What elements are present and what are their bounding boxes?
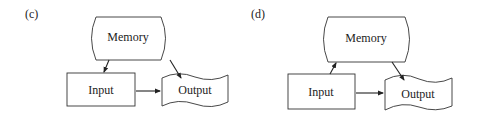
input-label-d: Input	[308, 85, 334, 99]
input-node-d: Input	[288, 74, 355, 109]
output-node-c: Output	[162, 74, 228, 107]
memory-node-c: Memory	[92, 17, 166, 60]
memory-label-d: Memory	[345, 31, 386, 45]
input-node-c: Input	[67, 73, 135, 106]
input-label-c: Input	[88, 83, 114, 97]
panel-d-label: (d)	[251, 7, 265, 21]
memory-node-d: Memory	[324, 17, 410, 62]
output-node-d: Output	[385, 75, 452, 110]
panel-c: (c) Memory Input Output	[25, 7, 228, 107]
arrow-input-to-memory-d	[330, 63, 336, 74]
panel-c-label: (c)	[25, 7, 38, 21]
diagram-canvas: (c) Memory Input Output (d) Memory Input	[0, 0, 478, 118]
output-label-c: Output	[178, 83, 212, 97]
memory-label-c: Memory	[107, 30, 148, 44]
arrow-memory-to-input-c	[104, 60, 109, 72]
output-label-d: Output	[401, 87, 435, 101]
panel-d: (d) Memory Input Output	[251, 7, 452, 110]
